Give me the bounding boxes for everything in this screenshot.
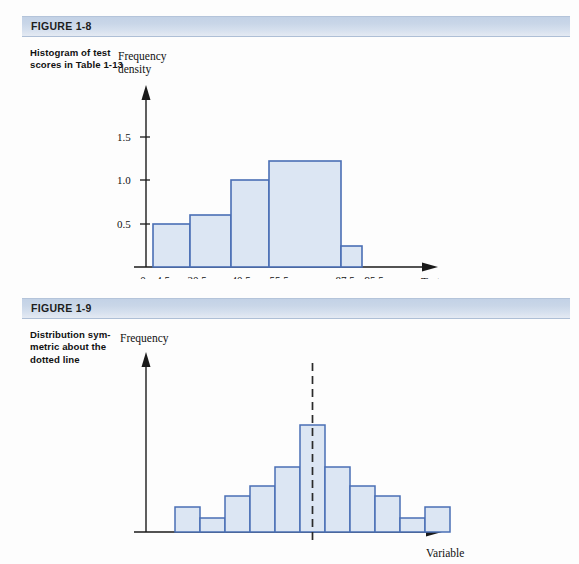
figure-1-8-body: Histogram of test scores in Table 1-13 F… [22,37,570,279]
figure-1-8-x-axis-title: Test scores [421,276,472,279]
figure-1-9-header-label: FIGURE 1-9 [31,302,92,314]
figure-1-8-x-tick-label-20.5: 20.5 [187,274,207,279]
figure-1-9-x-axis-title-line1: Variable [426,547,464,559]
figure-1-9-bar-10 [400,518,425,532]
figure-1-9-bar-8 [350,486,375,532]
figure-1-9-bar-3 [225,496,250,532]
figure-1-8-y-axis-title-line1: Frequency [118,50,167,63]
figure-1-8-header-bar: FIGURE 1-8 [22,16,570,37]
figure-1-8-header-label: FIGURE 1-8 [31,20,92,32]
figure-1-8-x-tick-label-87.5: 87.5 [335,274,355,279]
figure-1-8-x-tick-label-40.5: 40.5 [231,274,251,279]
figure-1-9-bar-1 [175,507,200,532]
figure-1-8-y-tick-label-0.5: 0.5 [117,218,131,230]
figure-1-8-plot: Frequency density 1.5 1.0 0 [22,37,570,279]
figure-1-9-bar-5 [275,467,300,532]
figure-1-8-y-tick-label-1.0: 1.0 [117,174,131,186]
figure-1-9-bar-7 [325,467,350,532]
figure-1-8-y-tick-label-1.5: 1.5 [117,131,131,143]
figure-1-9-bar-9 [375,496,400,532]
figure-1-9-bar-4 [250,486,275,532]
figure-1-8-bar-2 [190,215,231,267]
figure-1-8-x-tick-label-4.5: 4.5 [156,274,170,279]
figure-1-8-y-axis [142,85,151,267]
figure-1-9-y-axis [142,352,151,532]
figure-1-8-bar-4 [269,161,341,267]
figure-1-9-y-axis-title: Frequency [120,332,169,345]
figure-1-8-y-axis-title-line2: density [118,63,151,76]
figure-1-8-bar-5 [341,246,362,267]
figure-1-8: FIGURE 1-8 Histogram of test scores in T… [22,16,570,279]
figure-1-8-x-tick-label-0: 0 [140,274,146,279]
figure-1-8-x-tick-label-55.5: 55.5 [269,274,289,279]
page-canvas: FIGURE 1-8 Histogram of test scores in T… [0,0,579,564]
figure-1-9-body: Distribution sym- metric about the dotte… [22,319,570,561]
figure-1-8-bar-3 [231,180,269,267]
figure-1-8-x-tick-label-95.5: 95.5 [364,274,384,279]
figure-1-9-bar-11 [425,507,450,532]
figure-1-8-bars [153,161,362,267]
figure-1-8-y-ticks [140,137,150,224]
figure-1-9: FIGURE 1-9 Distribution sym- metric abou… [22,298,570,561]
figure-1-8-bar-1 [153,224,190,267]
figure-1-9-bar-2 [200,518,225,532]
figure-1-9-plot: Frequency [22,319,570,561]
figure-1-9-header-bar: FIGURE 1-9 [22,298,570,319]
